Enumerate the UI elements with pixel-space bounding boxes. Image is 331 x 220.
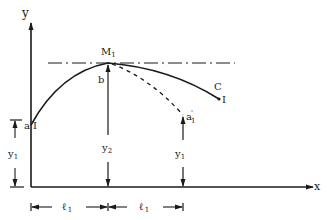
curve-end-mark-label: I — [222, 94, 226, 105]
start-a-label: a — [24, 120, 30, 131]
peak-label: M1 — [101, 46, 116, 59]
alt-end-label: a'1 — [186, 109, 195, 125]
left-height-label: y1 — [7, 148, 18, 161]
span2-label: ℓ1 — [139, 201, 149, 214]
span1-label: ℓ1 — [62, 201, 72, 214]
right-height-label: y1 — [174, 148, 185, 161]
start-mark-label: I — [33, 120, 37, 131]
end-point-dot — [217, 97, 220, 100]
curve-c-label: C — [214, 81, 222, 92]
y-axis-label: y — [21, 6, 29, 20]
diagram-canvas: y x M1 b C I a I a'1 y1 y2 y1 — [0, 0, 331, 220]
dashed-trajectory-curve — [112, 64, 183, 115]
peak-height-label: y2 — [101, 142, 112, 155]
x-axis-label: x — [314, 180, 321, 193]
span-dimensions — [31, 203, 183, 211]
peak-b-label: b — [98, 74, 104, 85]
